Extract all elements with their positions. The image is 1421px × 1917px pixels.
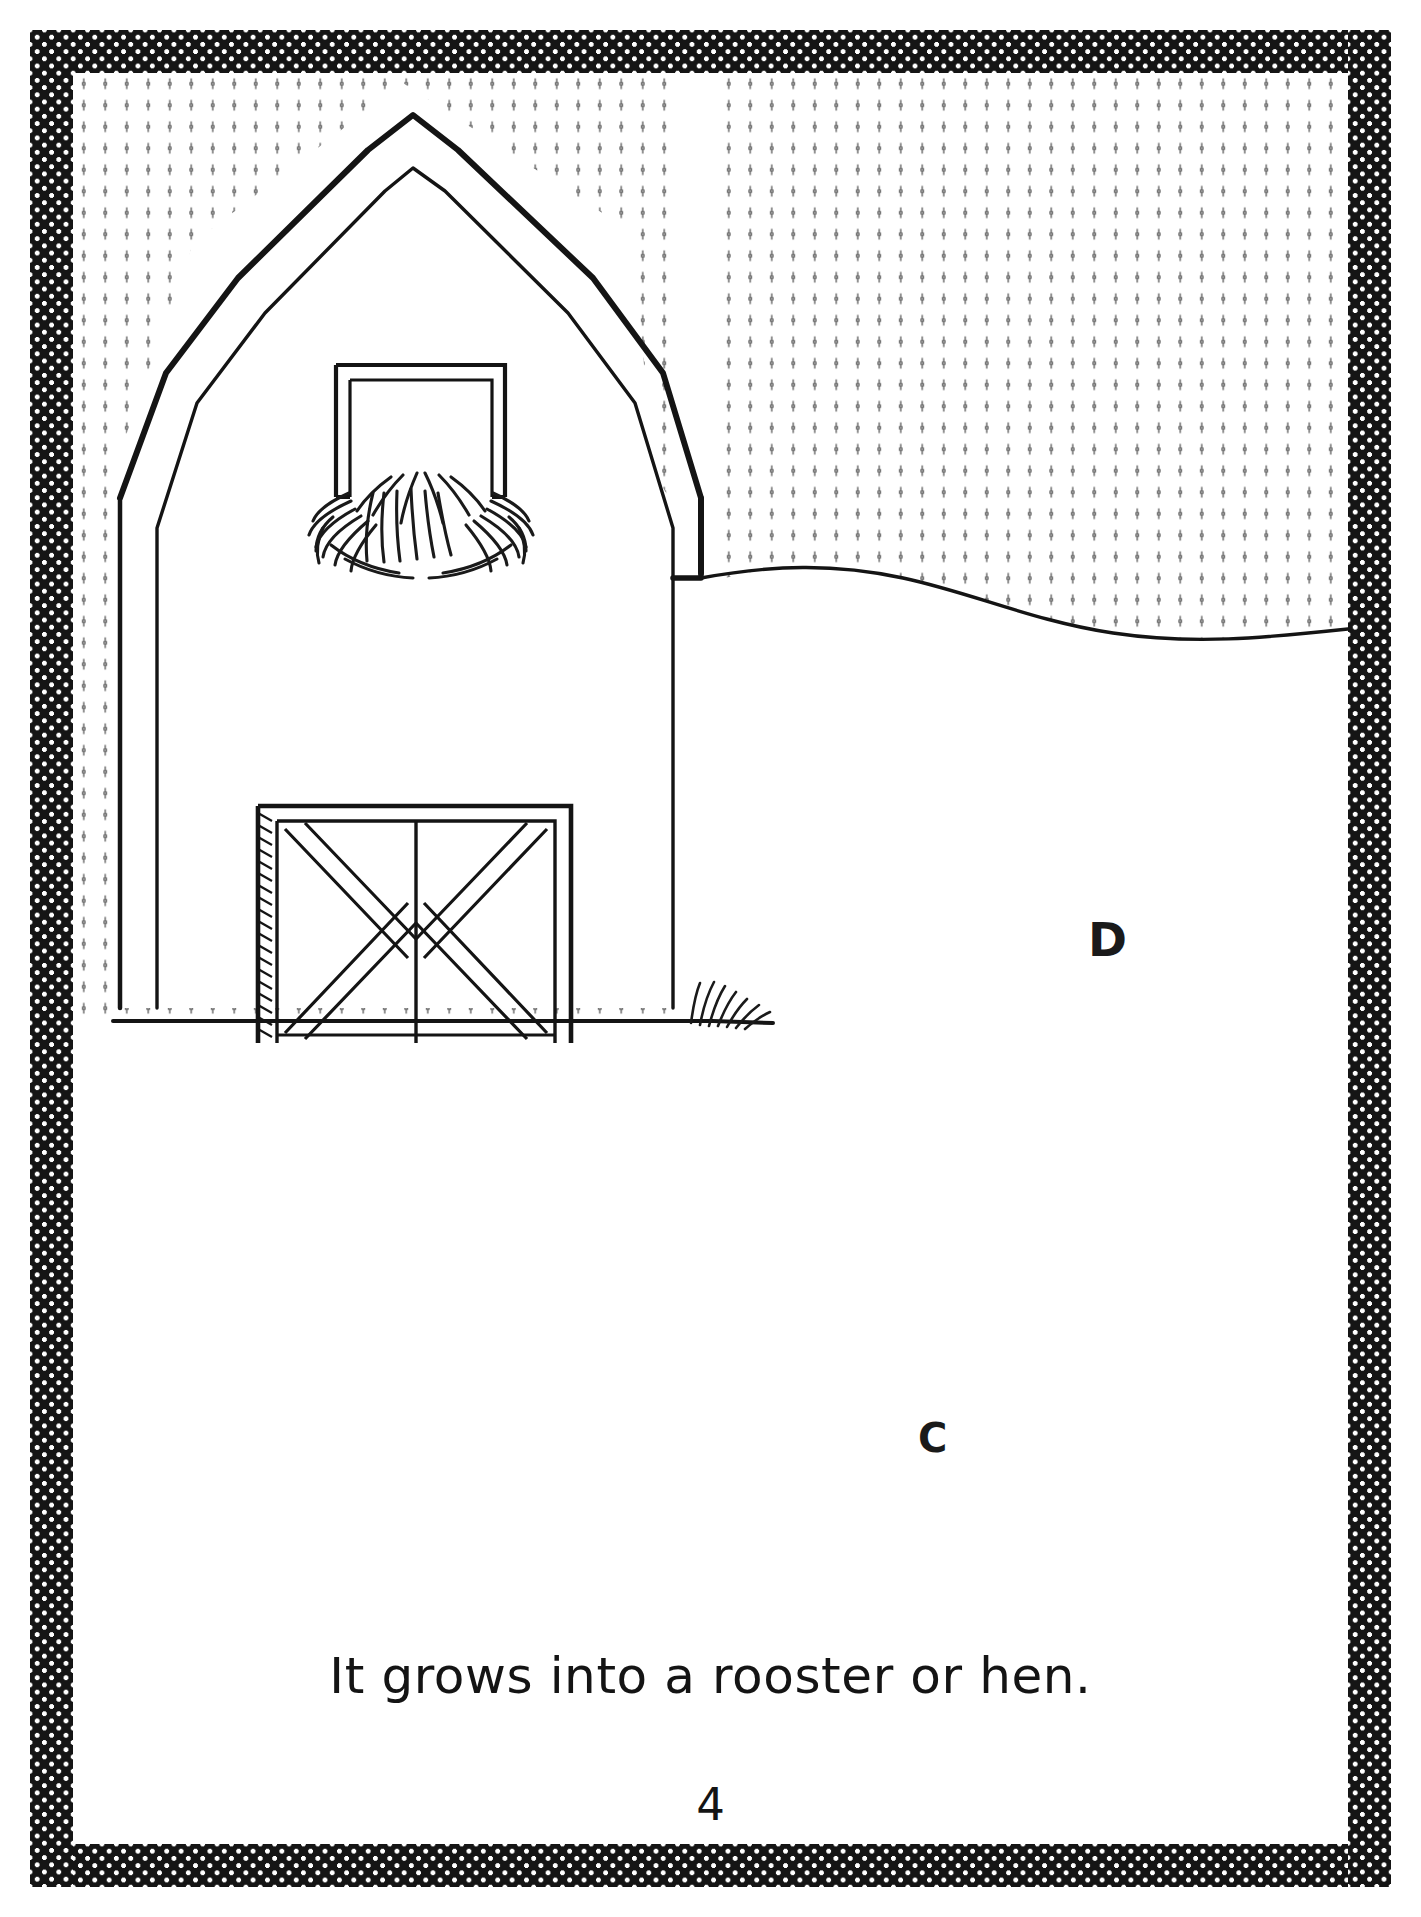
border-band-left [30, 30, 73, 1887]
checkered-border-frame: D C It grows into a rooster or hen. 4 [30, 30, 1391, 1887]
page-content-area: D C It grows into a rooster or hen. 4 [73, 73, 1348, 1844]
caption-text: It grows into a rooster or hen. [73, 1647, 1348, 1705]
answer-marker-d[interactable]: D [1088, 916, 1127, 963]
barn-illustration [73, 73, 1348, 1844]
border-band-top [30, 30, 1391, 73]
page-number: 4 [73, 1778, 1348, 1831]
ground-line [113, 1021, 773, 1023]
worksheet-page: D C It grows into a rooster or hen. 4 [0, 0, 1421, 1917]
border-band-right [1348, 30, 1391, 1887]
roof-eave-right [673, 498, 701, 578]
border-band-bottom [30, 1844, 1391, 1887]
answer-marker-c[interactable]: C [918, 1418, 947, 1458]
